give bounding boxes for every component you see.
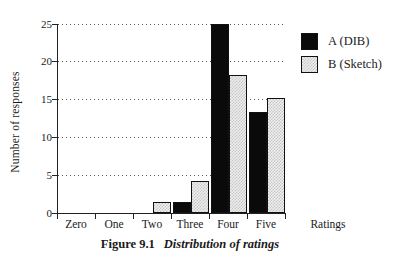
legend: A (DIB) B (Sketch) — [301, 33, 382, 79]
legend-label-b: B (Sketch) — [328, 57, 382, 72]
gridline-y-25 — [58, 24, 286, 25]
figure-distribution-of-ratings: Number of responses 0510152025 ZeroOneTw… — [0, 0, 395, 264]
y-tick-label-10: 10 — [20, 131, 52, 144]
bar-b-two — [153, 202, 171, 213]
figure-caption: Figure 9.1Distribution of ratings — [0, 237, 380, 252]
y-tick-15 — [52, 99, 57, 100]
y-tick-label-25: 25 — [20, 18, 52, 31]
y-tick-25 — [52, 24, 57, 25]
x-category-label-four: Four — [209, 218, 247, 230]
x-tick-6 — [285, 214, 286, 219]
bar-a-four — [211, 24, 229, 213]
legend-item-a: A (DIB) — [301, 33, 382, 50]
legend-swatch-b-checker — [301, 56, 318, 73]
legend-swatch-a-solid — [301, 33, 318, 50]
x-category-label-one: One — [95, 218, 133, 230]
x-category-label-two: Two — [133, 218, 171, 230]
bar-a-three — [173, 202, 191, 213]
y-tick-label-20: 20 — [20, 55, 52, 68]
bar-b-four — [229, 75, 247, 213]
figure-caption-title: Distribution of ratings — [164, 237, 279, 251]
y-tick-label-5: 5 — [20, 169, 52, 182]
x-axis-title: Ratings — [297, 218, 359, 230]
y-tick-label-15: 15 — [20, 93, 52, 106]
bar-b-five — [267, 98, 285, 213]
x-category-label-five: Five — [247, 218, 285, 230]
x-category-label-three: Three — [171, 218, 209, 230]
plot-area — [57, 24, 286, 214]
bar-a-five — [249, 112, 267, 213]
y-tick-10 — [52, 137, 57, 138]
y-tick-20 — [52, 61, 57, 62]
gridline-y-15 — [58, 99, 286, 100]
y-axis-title: Number of responses — [9, 71, 21, 173]
x-category-label-zero: Zero — [57, 218, 95, 230]
legend-label-a: A (DIB) — [328, 34, 369, 49]
bar-b-three — [191, 181, 209, 213]
y-tick-5 — [52, 175, 57, 176]
y-tick-label-0: 0 — [20, 207, 52, 220]
legend-item-b: B (Sketch) — [301, 56, 382, 73]
figure-caption-number: Figure 9.1 — [101, 237, 155, 251]
gridline-y-20 — [58, 61, 286, 62]
